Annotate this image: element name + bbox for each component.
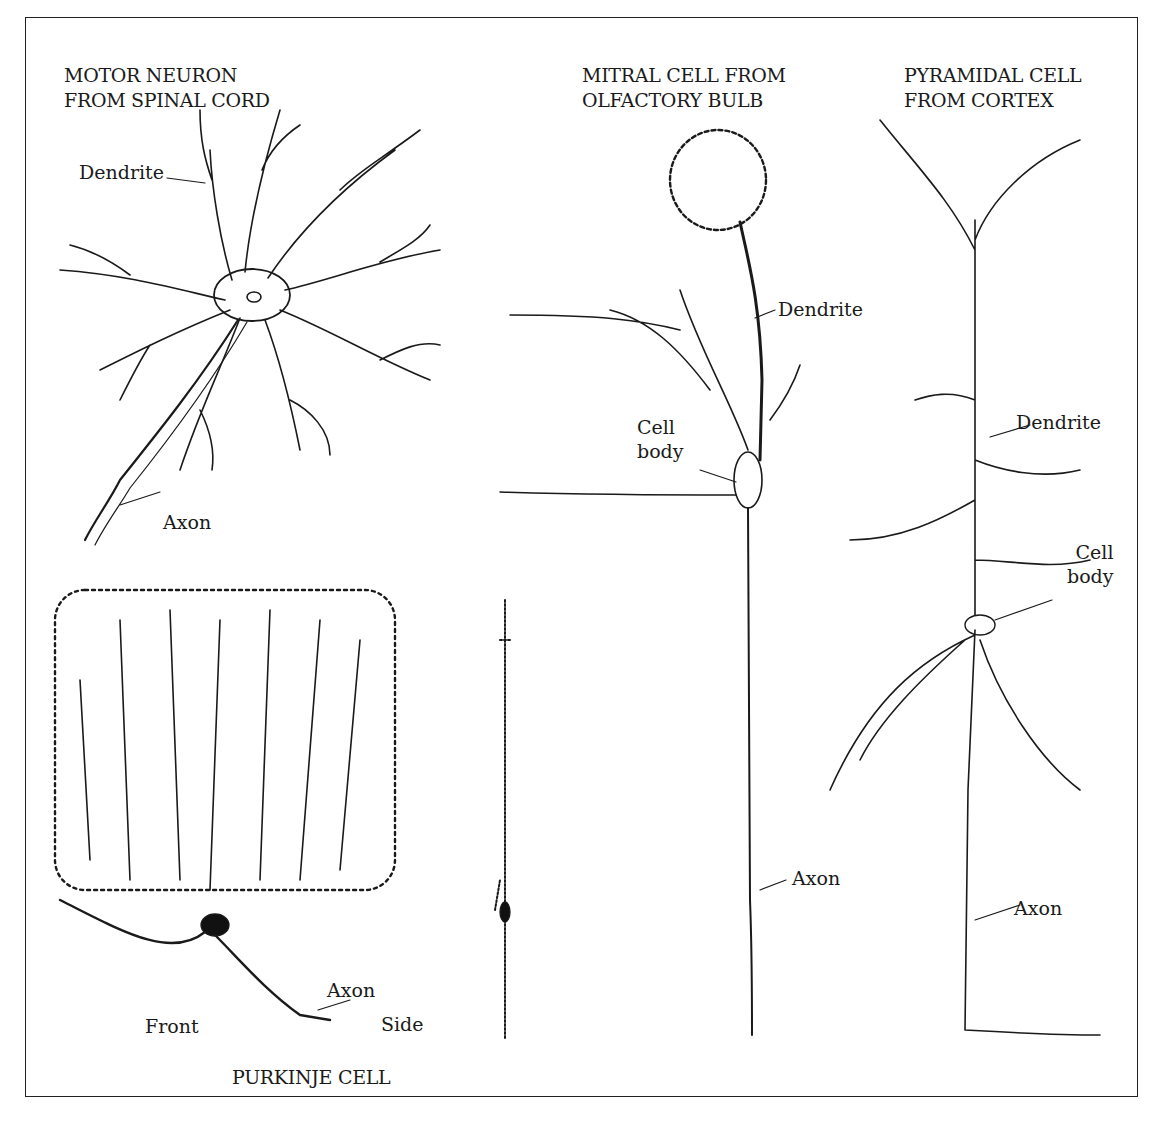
purkinje-axon-label: Axon: [327, 978, 375, 1002]
pyramidal-cell-body-label: Cellbody: [1067, 540, 1114, 588]
pyramidal-dendrite-label: Dendrite: [1016, 410, 1101, 434]
pyramidal-axon-label: Axon: [1014, 896, 1062, 920]
purkinje-front-label: Front: [145, 1014, 199, 1038]
mitral-cell-title: MITRAL CELL FROMOLFACTORY BULB: [582, 63, 786, 113]
motor-axon-label: Axon: [163, 510, 211, 534]
purkinje-cell-drawing: [55, 590, 510, 1040]
mitral-axon-label: Axon: [792, 866, 840, 890]
pyramidal-cell-title: PYRAMIDAL CELLFROM CORTEX: [904, 63, 1081, 113]
motor-neuron-title: MOTOR NEURONFROM SPINAL CORD: [64, 63, 270, 113]
neuron-illustrations: [0, 0, 1166, 1125]
mitral-cell-body-label: Cellbody: [637, 415, 684, 463]
mitral-cell-drawing: [500, 130, 800, 1035]
motor-dendrite-label: Dendrite: [79, 160, 164, 184]
purkinje-cell-title: PURKINJE CELL: [232, 1065, 390, 1090]
mitral-dendrite-label: Dendrite: [778, 297, 863, 321]
purkinje-side-label: Side: [381, 1012, 424, 1036]
